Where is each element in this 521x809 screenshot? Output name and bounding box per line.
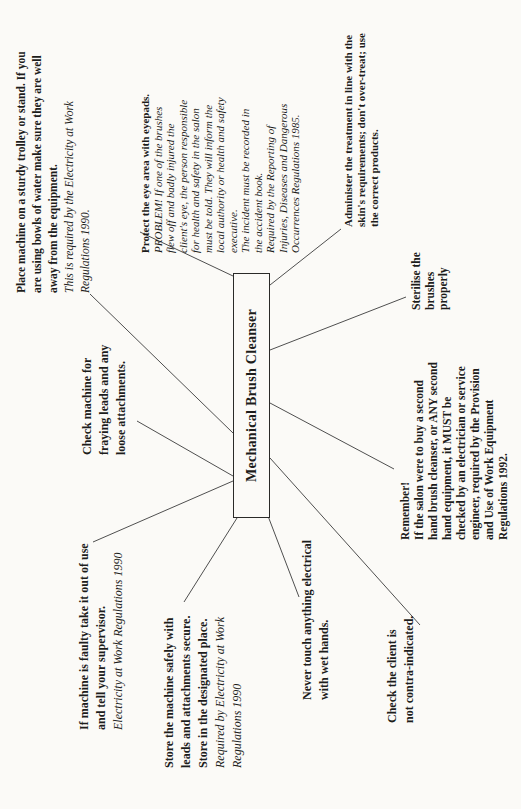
node-line: Place machine on a sturdy trolley or sta… [13, 51, 29, 293]
node-line: fraying leads and any [96, 345, 113, 455]
node-line: Electricity at Work Regulations 1990 [110, 543, 127, 730]
node-if-faulty: If machine is faulty take it out of usea… [76, 543, 127, 730]
node-line: and tell your supervisor. [93, 543, 110, 730]
node-administer: Administer the treatment in line with th… [342, 33, 381, 227]
node-line: with wet hands. [316, 540, 333, 700]
node-line: local authority or health and safety [214, 94, 227, 253]
node-place-machine: Place machine on a sturdy trolley or sta… [13, 51, 93, 293]
node-line: If machine is faulty take it out of use [76, 543, 93, 730]
node-line: Required by the Reporting of [264, 94, 277, 253]
node-line: must be told. They will inform the [202, 94, 215, 253]
node-line: not contra-indicated. [401, 616, 418, 723]
node-line: properly [437, 252, 451, 310]
node-line: leads and attachments secure. [178, 616, 195, 768]
node-line: skin's requirements; don't over-treat; u… [355, 33, 368, 227]
node-line: the correct products. [368, 33, 381, 227]
node-line: Check machine for [79, 345, 96, 455]
node-line: Never touch anything electrical [299, 540, 316, 700]
node-line: Administer the treatment in line with th… [342, 33, 355, 227]
node-line: flew off and badly injured the [164, 94, 177, 253]
node-line: Sterilise the [410, 252, 424, 310]
node-line: for health and safety in the salon [189, 94, 202, 253]
node-line: This is required by the Electricity at W… [61, 51, 77, 293]
node-line: hand brush cleanser, or ANY second [426, 362, 440, 540]
node-line: Occurrences Regulations 1985. [289, 94, 302, 253]
node-line: Required by Electricity at Work [212, 616, 229, 768]
node-never-touch: Never touch anything electricalwith wet … [299, 540, 333, 700]
spoke-remember [270, 403, 394, 469]
node-line: PROBLEM! If one of the brushes [152, 94, 165, 253]
node-line: brushes [424, 252, 438, 310]
node-line: Remember! [398, 362, 412, 540]
spoke-store-machine [184, 518, 237, 602]
node-line: engineer, required by the Provision [468, 362, 482, 540]
node-line: Check the client is [384, 616, 401, 723]
spoke-never-touch [268, 516, 299, 597]
node-line: hand equipment, it MUST be [440, 362, 454, 540]
scanned-page: Mechanical Brush Cleanser Place machine … [0, 0, 521, 809]
node-remember: Remember!If the salon were to buy a seco… [398, 362, 510, 540]
spoke-sterilise [270, 297, 406, 350]
node-check-fraying: Check machine forfraying leads and anylo… [79, 345, 130, 455]
node-line: Injuries, Diseases and Dangerous [277, 94, 290, 253]
node-store-machine: Store the machine safely withleads and a… [161, 616, 246, 768]
node-line: client's eye, the person responsible [177, 94, 190, 253]
node-line: the accident book. [252, 94, 265, 253]
node-check-client: Check the client isnot contra-indicated. [384, 616, 418, 723]
node-line: Store in the designated place. [195, 616, 212, 768]
center-node-label: Mechanical Brush Cleanser [244, 309, 260, 482]
node-line: Protect the eye area with eyepads. [139, 94, 152, 253]
node-line: Regulations 1990. [77, 51, 93, 293]
node-line: Regulations 1990 [229, 616, 246, 768]
node-protect-eye: Protect the eye area with eyepads.PROBLE… [139, 94, 302, 253]
node-line: are using bowls of water make sure they … [29, 51, 45, 293]
node-line: If the salon were to buy a second [412, 362, 426, 540]
spoke-if-faulty [93, 481, 233, 542]
node-line: Regulations 1992. [496, 362, 510, 540]
node-line: away from the equipment. [45, 51, 61, 293]
spider-diagram: Mechanical Brush Cleanser Place machine … [0, 0, 521, 809]
spoke-check-fraying [137, 421, 233, 476]
node-line: The incident must be recorded in [239, 94, 252, 253]
node-line: executive. [227, 94, 240, 253]
node-sterilise: Sterilise thebrushesproperly [410, 252, 451, 310]
node-line: checked by an electrician or service [454, 362, 468, 540]
node-line: loose attachments. [113, 345, 130, 455]
center-node: Mechanical Brush Cleanser [233, 273, 270, 518]
node-line: and Use of Work Equipment [482, 362, 496, 540]
node-line: Store the machine safely with [161, 616, 178, 768]
